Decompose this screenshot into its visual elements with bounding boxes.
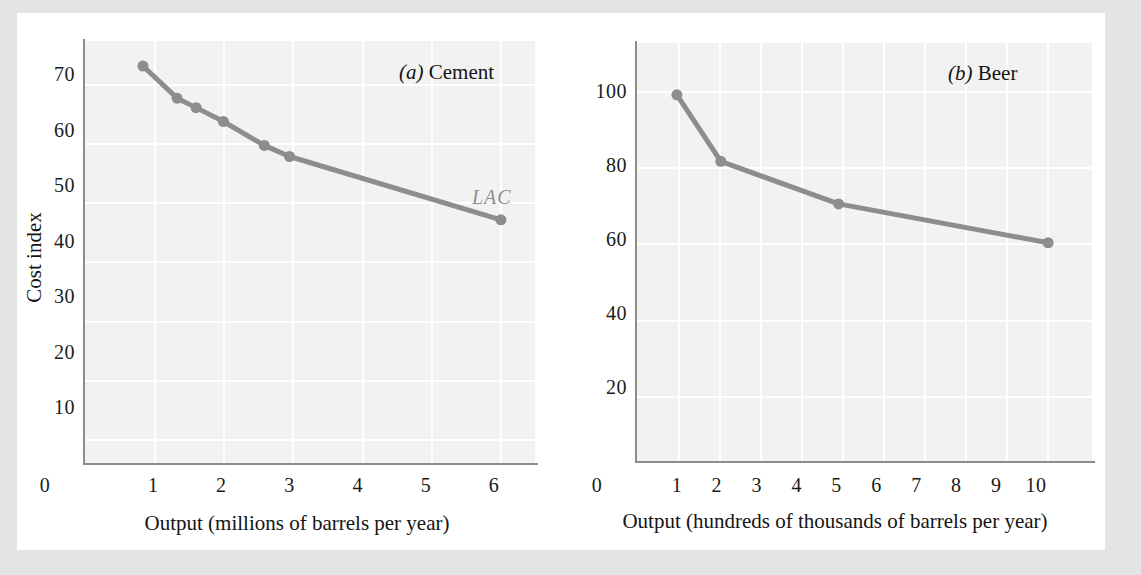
figure-card: 10203040506070 0123456 (a) Cement LAC Ou… <box>17 13 1105 550</box>
x-tick-labels-cement: 0123456 <box>17 475 577 501</box>
x-tick-label: 1 <box>672 475 683 495</box>
data-point-marker <box>671 89 682 100</box>
panel-name-cement: Cement <box>429 60 494 84</box>
data-point-marker <box>172 93 183 104</box>
y-tick-label: 10 <box>17 397 75 417</box>
y-axis-line-cement <box>83 39 85 465</box>
x-tick-label: 2 <box>712 475 723 495</box>
lac-curve-beer <box>637 43 1092 461</box>
figure-page: 10203040506070 0123456 (a) Cement LAC Ou… <box>0 0 1141 575</box>
x-tick-label: 5 <box>421 475 432 495</box>
lac-curve-cement <box>85 41 535 463</box>
x-tick-label: 3 <box>751 475 762 495</box>
x-tick-label: 0 <box>40 475 51 495</box>
panel-title-cement: (a) Cement <box>399 60 494 85</box>
panel-label-beer: (b) <box>948 61 973 85</box>
y-axis-line-beer <box>635 41 637 463</box>
lac-annotation-cement: LAC <box>472 186 512 209</box>
x-tick-labels-beer: 012345678910 <box>565 475 1105 501</box>
x-tick-label: 2 <box>216 475 227 495</box>
data-point-marker <box>284 151 295 162</box>
x-axis-title-cement: Output (millions of barrels per year) <box>17 511 577 536</box>
x-tick-label: 6 <box>871 475 882 495</box>
plot-area-beer <box>637 43 1092 461</box>
panel-name-beer: Beer <box>978 61 1018 85</box>
x-axis-line-beer <box>635 461 1095 463</box>
x-tick-label: 4 <box>791 475 802 495</box>
x-tick-label: 6 <box>489 475 500 495</box>
y-tick-labels-beer: 20406080100 <box>565 13 627 550</box>
y-tick-label: 20 <box>565 377 627 397</box>
x-tick-label: 9 <box>991 475 1002 495</box>
x-tick-label: 5 <box>831 475 842 495</box>
y-tick-label: 60 <box>565 229 627 249</box>
y-tick-label: 40 <box>565 303 627 323</box>
data-point-marker <box>833 198 844 209</box>
x-axis-title-beer: Output (hundreds of thousands of barrels… <box>565 509 1105 534</box>
panel-title-beer: (b) Beer <box>948 61 1017 86</box>
data-point-marker <box>1043 237 1054 248</box>
x-tick-label: 3 <box>284 475 295 495</box>
x-tick-label: 7 <box>911 475 922 495</box>
data-point-marker <box>715 156 726 167</box>
x-tick-label: 1 <box>148 475 159 495</box>
x-tick-label: 10 <box>1026 475 1047 495</box>
data-point-marker <box>191 102 202 113</box>
x-axis-line-cement <box>83 463 538 465</box>
x-tick-label: 8 <box>951 475 962 495</box>
y-tick-label: 80 <box>565 155 627 175</box>
data-point-marker <box>218 116 229 127</box>
data-point-marker <box>495 214 506 225</box>
data-point-marker <box>259 140 270 151</box>
y-tick-label: 70 <box>17 64 75 84</box>
x-tick-label: 4 <box>352 475 363 495</box>
x-tick-label: 0 <box>592 475 603 495</box>
plot-area-cement <box>85 41 535 463</box>
panel-label-cement: (a) <box>399 60 424 84</box>
chart-panel-cement: 10203040506070 0123456 (a) Cement LAC Ou… <box>17 13 577 550</box>
y-axis-title-cement: Cost index <box>22 133 47 383</box>
data-point-marker <box>137 60 148 71</box>
chart-panel-beer: 20406080100 012345678910 (b) Beer LAC Ou… <box>565 13 1105 550</box>
y-tick-label: 100 <box>565 81 627 101</box>
